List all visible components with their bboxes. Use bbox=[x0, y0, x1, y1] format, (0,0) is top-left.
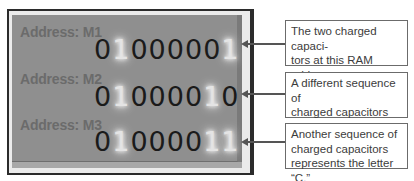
bit: 0 bbox=[94, 128, 112, 155]
bit: 0 bbox=[130, 83, 148, 110]
callout-line: A different sequence of bbox=[291, 76, 402, 105]
arrow-m1 bbox=[243, 43, 285, 45]
bit: 0 bbox=[185, 83, 203, 110]
bit: 0 bbox=[221, 83, 239, 110]
bit: 0 bbox=[149, 83, 167, 110]
bit: 0 bbox=[185, 36, 203, 63]
bit: 0 bbox=[167, 128, 185, 155]
callout-line: Another sequence of bbox=[291, 127, 402, 142]
bit-charged: 1 bbox=[203, 83, 221, 110]
bit-charged: 1 bbox=[112, 36, 130, 63]
bit: 0 bbox=[94, 83, 112, 110]
bit: 0 bbox=[167, 83, 185, 110]
bit-charged: 1 bbox=[203, 128, 221, 155]
bit: 0 bbox=[94, 36, 112, 63]
bit: 0 bbox=[130, 128, 148, 155]
bit-charged: 1 bbox=[221, 128, 239, 155]
callout-m1: The two charged capaci- tors at this RAM… bbox=[285, 20, 408, 66]
address-label-m2: Address: M2 bbox=[20, 71, 102, 87]
bit-sequence-m3: 01000011 bbox=[94, 128, 240, 155]
bit: 0 bbox=[149, 128, 167, 155]
bit-sequence-m1: 01000001 bbox=[94, 36, 240, 63]
callout-m2: A different sequence of charged capacito… bbox=[285, 72, 408, 118]
bit-charged: 1 bbox=[112, 83, 130, 110]
bit-charged: 1 bbox=[221, 36, 239, 63]
bit: 0 bbox=[185, 128, 203, 155]
address-label-m1: Address: M1 bbox=[20, 24, 102, 40]
callout-m3: Another sequence of charged capacitors r… bbox=[285, 123, 408, 169]
bit: 0 bbox=[149, 36, 167, 63]
bit: 0 bbox=[167, 36, 185, 63]
bit-charged: 1 bbox=[112, 128, 130, 155]
bit-sequence-m2: 01000010 bbox=[94, 83, 240, 110]
arrow-m2 bbox=[243, 93, 285, 95]
callout-line: charged capacitors bbox=[291, 142, 402, 157]
ram-panel-bottom-edge bbox=[12, 162, 242, 168]
arrow-m3 bbox=[243, 141, 285, 143]
address-label-m3: Address: M3 bbox=[20, 117, 102, 133]
bit: 0 bbox=[130, 36, 148, 63]
callout-line: charged capacitors bbox=[291, 105, 402, 120]
callout-line: represents the letter “C.” bbox=[291, 156, 402, 181]
callout-line: The two charged capaci- bbox=[291, 24, 402, 53]
bit: 0 bbox=[203, 36, 221, 63]
